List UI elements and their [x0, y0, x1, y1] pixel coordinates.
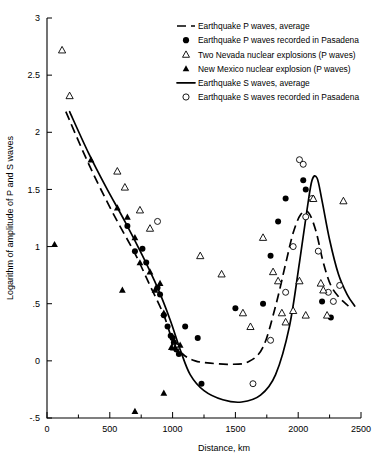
y-tick-label: 2 — [35, 127, 40, 137]
legend-label: Earthquake P waves, average — [198, 21, 310, 31]
data-point-open-circle — [155, 218, 161, 224]
data-point-open-triangle — [239, 309, 246, 316]
open-circle-icon — [183, 94, 189, 100]
data-point-filled-triangle — [132, 408, 139, 414]
data-point-filled-circle — [182, 324, 188, 330]
data-point-open-circle — [330, 298, 336, 304]
legend-item-nevada[interactable]: Two Nevada nuclear explosions (P waves) — [183, 50, 356, 60]
data-point-open-triangle — [114, 168, 121, 175]
data-point-open-circle — [300, 161, 306, 167]
y-tick-label: -.5 — [29, 413, 40, 423]
x-tick-label: 500 — [102, 424, 117, 434]
series-s-average — [70, 112, 355, 403]
data-point-open-triangle — [282, 318, 289, 325]
data-point-open-triangle — [146, 225, 153, 232]
data-point-filled-triangle — [51, 241, 58, 247]
data-point-open-circle — [290, 244, 296, 250]
data-point-filled-circle — [198, 381, 204, 387]
data-point-open-triangle — [317, 280, 324, 287]
data-point-open-triangle — [275, 277, 282, 284]
data-point-filled-circle — [303, 186, 309, 192]
x-tick-label: 1500 — [225, 424, 245, 434]
data-point-open-triangle — [320, 286, 327, 293]
data-point-open-triangle — [269, 268, 276, 275]
data-point-open-circle — [268, 337, 274, 343]
legend-label: Two Nevada nuclear explosions (P waves) — [198, 50, 356, 60]
legend-label: New Mexico nuclear explosion (P waves) — [198, 64, 351, 74]
y-tick-label: 0 — [35, 356, 40, 366]
open-triangle-icon — [183, 51, 190, 57]
data-point-filled-circle — [132, 248, 138, 254]
x-tick-label: 1000 — [163, 424, 183, 434]
legend-item-p-average[interactable]: Earthquake P waves, average — [177, 21, 310, 31]
curve-s-average — [70, 112, 355, 403]
data-point-filled-triangle — [114, 204, 121, 210]
data-point-open-circle — [315, 248, 321, 254]
data-point-filled-triangle — [137, 259, 144, 265]
data-point-filled-circle — [232, 305, 238, 311]
data-point-filled-triangle — [88, 156, 95, 162]
curve-p-average — [66, 112, 349, 365]
x-tick-label: 2500 — [351, 424, 371, 434]
y-axis-title: Logarithm of amplitude of P and S waves — [5, 136, 15, 300]
data-point-open-circle — [250, 381, 256, 387]
data-point-open-triangle — [302, 312, 309, 319]
data-point-filled-circle — [319, 298, 325, 304]
data-point-filled-circle — [195, 335, 201, 341]
data-point-filled-circle — [139, 246, 145, 252]
legend-label: Earthquake S waves recorded in Pasadena — [198, 92, 359, 102]
data-point-filled-circle — [275, 218, 281, 224]
data-point-filled-triangle — [160, 389, 167, 395]
x-tick-label: 0 — [44, 424, 49, 434]
x-tick-label: 2000 — [288, 424, 308, 434]
data-point-filled-circle — [165, 324, 171, 330]
data-point-filled-triangle — [124, 213, 131, 219]
data-point-filled-circle — [143, 260, 149, 266]
legend-label: Earthquake P waves recorded in Pasadena — [198, 35, 359, 45]
filled-circle-icon — [183, 37, 189, 43]
y-tick-label: 3 — [35, 13, 40, 23]
series-p-average — [66, 112, 349, 365]
y-tick-label: .5 — [32, 299, 40, 309]
data-point-filled-triangle — [147, 268, 154, 274]
y-tick-label: 1.5 — [27, 185, 40, 195]
data-point-open-triangle — [247, 323, 254, 330]
data-point-open-triangle — [197, 252, 204, 259]
data-point-open-triangle — [66, 92, 73, 99]
legend-item-s-average[interactable]: Earthquake S waves, average — [177, 78, 310, 88]
data-point-open-circle — [283, 289, 289, 295]
data-point-open-triangle — [218, 270, 225, 277]
filled-triangle-icon — [183, 65, 190, 71]
chart-legend: Earthquake P waves, averageEarthquake P … — [177, 21, 359, 102]
data-point-filled-circle — [124, 223, 130, 229]
legend-item-p-pasadena[interactable]: Earthquake P waves recorded in Pasadena — [183, 35, 359, 45]
legend-label: Earthquake S waves, average — [198, 78, 310, 88]
data-point-filled-circle — [176, 351, 182, 357]
data-point-filled-circle — [300, 177, 306, 183]
data-point-open-circle — [303, 214, 309, 220]
data-point-open-triangle — [259, 234, 266, 241]
y-axis-ticks: -.50.511.522.53 — [27, 13, 52, 423]
earthquake-amplitude-chart: -.50.511.522.5305001000150020002500Dista… — [0, 0, 372, 469]
legend-item-new-mexico[interactable]: New Mexico nuclear explosion (P waves) — [183, 64, 351, 74]
y-tick-label: 1 — [35, 242, 40, 252]
data-point-open-triangle — [340, 197, 347, 204]
data-point-filled-circle — [283, 196, 289, 202]
data-point-open-circle — [337, 282, 343, 288]
data-point-filled-circle — [268, 253, 274, 259]
data-point-open-triangle — [290, 307, 297, 314]
x-axis-title: Distance, km — [198, 443, 250, 453]
series-new-mexico — [51, 156, 183, 414]
legend-item-s-pasadena[interactable]: Earthquake S waves recorded in Pasadena — [183, 92, 360, 102]
data-point-open-triangle — [278, 309, 285, 316]
data-point-filled-triangle — [119, 287, 126, 293]
data-point-open-triangle — [121, 184, 128, 191]
data-point-filled-circle — [260, 301, 266, 307]
series-s-pasadena — [155, 157, 343, 387]
data-point-filled-triangle — [157, 280, 164, 286]
y-tick-label: 2.5 — [27, 70, 40, 80]
data-point-open-triangle — [58, 46, 65, 53]
data-point-open-triangle — [136, 206, 143, 213]
x-axis-ticks: 05001000150020002500 — [44, 412, 371, 434]
